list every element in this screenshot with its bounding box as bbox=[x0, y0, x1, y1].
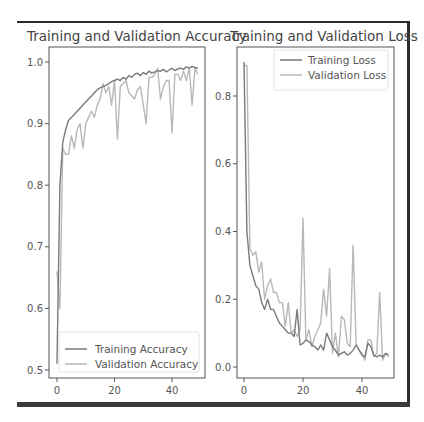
x-tick-label: 40 bbox=[356, 385, 369, 396]
legend-validation-accuracy: Validation Accuracy bbox=[95, 358, 198, 370]
loss-x-axis: 02040 bbox=[241, 378, 369, 396]
x-tick-label: 40 bbox=[166, 385, 179, 396]
y-tick-label: 0.2 bbox=[215, 294, 231, 305]
y-tick-label: 0.7 bbox=[27, 241, 43, 252]
accuracy-x-axis: 02040 bbox=[54, 378, 179, 396]
y-tick-label: 0.0 bbox=[215, 362, 231, 373]
y-tick-label: 1.0 bbox=[27, 57, 43, 68]
x-tick-label: 20 bbox=[108, 385, 121, 396]
loss-legend: Training Loss Validation Loss bbox=[274, 50, 388, 90]
x-tick-label: 0 bbox=[241, 385, 247, 396]
y-tick-label: 0.5 bbox=[27, 365, 43, 376]
loss-chart-title: Training and Validation Loss bbox=[229, 28, 418, 44]
accuracy-chart-title: Training and Validation Accuracy bbox=[26, 28, 247, 44]
loss-plot-area bbox=[237, 47, 394, 378]
accuracy-y-axis: 0.50.60.70.80.91.0 bbox=[27, 57, 49, 376]
y-tick-label: 0.8 bbox=[27, 180, 43, 191]
x-tick-label: 20 bbox=[297, 385, 310, 396]
legend-validation-loss: Validation Loss bbox=[308, 69, 386, 81]
accuracy-legend: Training Accuracy Validation Accuracy bbox=[59, 332, 199, 372]
y-tick-label: 0.6 bbox=[27, 303, 43, 314]
y-tick-label: 0.4 bbox=[215, 226, 231, 237]
y-tick-label: 0.9 bbox=[27, 118, 43, 129]
y-tick-label: 0.8 bbox=[215, 91, 231, 102]
accuracy-plot-area bbox=[49, 47, 205, 378]
legend-training-loss: Training Loss bbox=[307, 54, 376, 66]
loss-chart: 0.00.20.40.60.8 02040 Training Loss Vali… bbox=[215, 47, 394, 396]
y-tick-label: 0.6 bbox=[215, 158, 231, 169]
figure: Training and Validation Accuracy Trainin… bbox=[0, 0, 424, 422]
accuracy-chart: 0.50.60.70.80.91.0 02040 Training Accura… bbox=[27, 47, 205, 396]
legend-training-accuracy: Training Accuracy bbox=[94, 343, 188, 355]
loss-y-axis: 0.00.20.40.60.8 bbox=[215, 91, 237, 373]
x-tick-label: 0 bbox=[54, 385, 60, 396]
